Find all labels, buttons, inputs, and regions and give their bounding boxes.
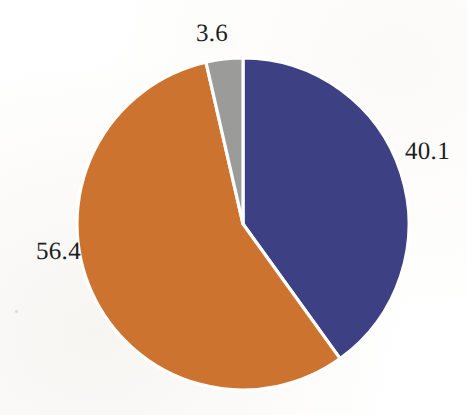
pie-chart-figure: 3.6 40.1 56.4 — [0, 0, 467, 415]
blue-slice-value-label: 40.1 — [405, 139, 450, 164]
orange-slice-value-label: 56.4 — [36, 239, 81, 264]
scan-speck-artifact — [15, 310, 18, 313]
gray-slice-value-label: 3.6 — [196, 21, 228, 46]
pie-slices-group — [77, 58, 409, 390]
pie-chart-canvas — [0, 0, 467, 415]
